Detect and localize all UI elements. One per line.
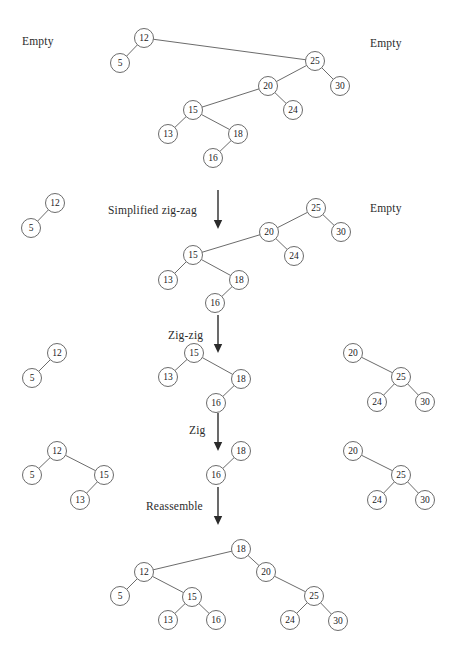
tree-diagram-canvas xyxy=(0,0,457,652)
arrow-head xyxy=(214,220,222,229)
tree-node-label: 30 xyxy=(420,398,430,408)
empty-right-2: Empty xyxy=(370,202,402,214)
tree-node-label: 15 xyxy=(99,471,109,481)
tree-node-label: 20 xyxy=(261,568,271,578)
tree-node-label: 5 xyxy=(118,59,123,69)
tree-edge xyxy=(275,576,306,592)
tree-edge xyxy=(222,287,232,297)
tree-edge xyxy=(87,482,98,493)
tree-edge xyxy=(199,604,209,614)
tree-node-label: 25 xyxy=(396,373,406,383)
tree-node-label: 20 xyxy=(348,447,358,457)
tree-node-label: 30 xyxy=(336,228,346,238)
tree-node-label: 20 xyxy=(263,82,273,92)
tree-node-label: 18 xyxy=(236,545,246,555)
tree-edge xyxy=(175,604,185,614)
tree-edge xyxy=(153,39,305,59)
tree-edge xyxy=(275,93,286,104)
tree-edge xyxy=(362,455,393,471)
tree-node-label: 25 xyxy=(396,471,406,481)
tree-node-label: 16 xyxy=(210,299,220,309)
tree-node-label: 12 xyxy=(52,349,62,359)
tree-node-label: 16 xyxy=(211,399,221,409)
tree-node-label: 24 xyxy=(288,106,298,116)
op-zig: Zig xyxy=(189,424,206,436)
tree-node-label: 12 xyxy=(50,199,60,209)
op-reassemble: Reassemble xyxy=(146,500,203,512)
tree-node-label: 24 xyxy=(372,496,382,506)
arrow-head xyxy=(214,516,222,525)
tree-node-label: 25 xyxy=(311,204,321,214)
stage-edges-stage-3-after-zigzig xyxy=(39,357,419,396)
tree-edge xyxy=(297,603,308,614)
tree-node-label: 13 xyxy=(163,616,173,626)
tree-node-label: 13 xyxy=(163,276,173,286)
tree-node-label: 18 xyxy=(234,276,244,286)
tree-edge xyxy=(39,360,51,372)
tree-node-label: 13 xyxy=(75,496,85,506)
tree-node-label: 16 xyxy=(211,616,221,626)
tree-node-label: 30 xyxy=(420,496,430,506)
tree-edge xyxy=(323,215,334,226)
arrow-zigzig-arrow-icon xyxy=(214,315,222,353)
tree-edge xyxy=(223,386,234,397)
tree-edge xyxy=(201,114,229,129)
tree-edge xyxy=(175,359,187,370)
tree-node-label: 30 xyxy=(333,617,343,627)
tree-edge xyxy=(65,455,95,470)
tree-node-label: 12 xyxy=(139,34,149,44)
tree-edge xyxy=(38,210,49,221)
tree-node-label: 25 xyxy=(309,592,319,602)
tree-node-label: 13 xyxy=(163,130,173,140)
tree-edge xyxy=(276,65,306,81)
tree-node-label: 24 xyxy=(372,398,382,408)
tree-node-label: 12 xyxy=(139,568,149,578)
tree-node-label: 5 xyxy=(29,224,34,234)
tree-node-label: 24 xyxy=(289,252,299,262)
tree-node-label: 18 xyxy=(236,447,246,457)
tree-edge xyxy=(202,358,232,375)
tree-node-label: 18 xyxy=(233,130,243,140)
tree-edge xyxy=(127,45,138,56)
tree-edge xyxy=(276,239,287,250)
tree-node-label: 25 xyxy=(310,57,320,67)
tree-edge xyxy=(127,579,138,590)
tree-node-label: 5 xyxy=(118,592,123,602)
edges-layer xyxy=(38,39,419,614)
tree-node-label: 18 xyxy=(236,375,246,385)
tree-edge xyxy=(321,603,332,614)
op-zigzag: Simplified zig-zag xyxy=(108,204,197,216)
tree-edge xyxy=(384,482,395,493)
tree-node-label: 13 xyxy=(163,373,173,383)
tree-edge xyxy=(223,458,234,469)
tree-edge xyxy=(248,555,259,565)
stage-nodes-stage-5-reassembled xyxy=(111,540,348,631)
tree-node-label: 15 xyxy=(187,593,197,603)
stage-edges-stage-5-reassembled xyxy=(127,551,332,614)
tree-edge xyxy=(202,89,259,107)
tree-edge xyxy=(39,458,50,469)
tree-edge xyxy=(220,141,231,152)
arrow-reassemble-arrow-icon xyxy=(214,487,222,525)
op-zigzig: Zig-zig xyxy=(168,329,203,341)
tree-edge xyxy=(153,551,232,570)
tree-edge xyxy=(175,117,186,128)
tree-edge xyxy=(175,262,187,274)
arrow-head xyxy=(214,442,222,451)
tree-node-label: 30 xyxy=(335,82,345,92)
tree-edge xyxy=(202,235,260,253)
tree-node-label: 15 xyxy=(188,106,198,116)
arrow-zig-arrow-icon xyxy=(214,413,222,451)
tree-node-label: 12 xyxy=(52,447,62,457)
tree-edge xyxy=(277,212,307,227)
tree-edge xyxy=(362,357,393,373)
tree-edge xyxy=(322,68,334,80)
tree-edge xyxy=(384,384,395,395)
tree-edge xyxy=(152,576,183,592)
empty-right-top: Empty xyxy=(370,37,402,49)
tree-node-label: 16 xyxy=(211,471,221,481)
arrow-head xyxy=(214,344,222,353)
tree-node-label: 20 xyxy=(264,228,274,238)
nodes-layer xyxy=(22,29,435,631)
tree-edge xyxy=(408,482,419,493)
